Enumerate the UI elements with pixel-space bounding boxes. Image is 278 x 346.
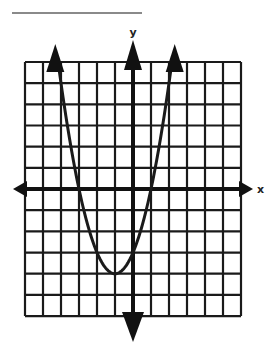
y-axis-down-arrow-icon bbox=[122, 312, 144, 342]
x-axis-label: x bbox=[257, 183, 264, 196]
parabola-right-arrow-icon bbox=[166, 44, 184, 72]
y-axis-label: y bbox=[129, 26, 136, 39]
x-axis-right-arrow-icon bbox=[239, 181, 253, 197]
x-axis-left-arrow-icon bbox=[13, 181, 27, 197]
coordinate-graph: y x bbox=[0, 0, 278, 346]
parabola-left-arrow-icon bbox=[46, 44, 64, 72]
y-axis-up-arrow-icon bbox=[124, 40, 142, 70]
axes bbox=[13, 40, 253, 342]
